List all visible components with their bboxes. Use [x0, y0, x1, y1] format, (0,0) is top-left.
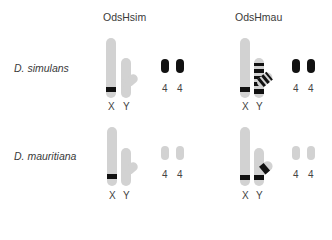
panel-mau-odshsim: [107, 127, 184, 186]
label-dot: 4: [177, 84, 183, 94]
panel-mau-odshmau: [240, 127, 315, 186]
label-y: Y: [256, 102, 263, 112]
label-dot: 4: [162, 84, 168, 94]
label-x: X: [242, 191, 249, 201]
label-dot: 4: [308, 170, 314, 180]
label-x: X: [242, 102, 249, 112]
y-chromosome: [120, 58, 140, 98]
dot-chromosomes: [161, 59, 184, 73]
y-chromosome: [254, 148, 275, 186]
label-dot: 4: [293, 84, 299, 94]
label-dot: 4: [162, 170, 168, 180]
label-dot: 4: [293, 170, 299, 180]
y-chromosome-banded: [254, 58, 274, 98]
label-y: Y: [123, 191, 130, 201]
dot-chromosomes: [292, 59, 315, 73]
label-y: Y: [123, 102, 130, 112]
x-chromosome: [106, 38, 116, 98]
dot-chromosomes: [292, 146, 315, 160]
label-x: X: [109, 191, 116, 201]
x-chromosome: [240, 127, 250, 186]
dot-chromosomes: [161, 146, 184, 160]
y-chromosome: [121, 148, 140, 186]
panel-sim-odshsim: [106, 38, 184, 98]
label-dot: 4: [308, 84, 314, 94]
label-y: Y: [256, 191, 263, 201]
label-dot: 4: [177, 170, 183, 180]
x-chromosome: [107, 127, 117, 186]
x-chromosome: [240, 38, 250, 98]
label-x: X: [108, 102, 115, 112]
panel-sim-odshmau: [240, 38, 315, 98]
